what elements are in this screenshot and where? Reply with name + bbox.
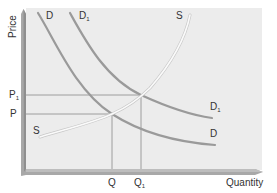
- price-p-label: P: [10, 108, 17, 119]
- y-axis-label: Price: [7, 15, 18, 38]
- plot-area: [26, 8, 262, 170]
- demand-d-top-label: D: [46, 10, 53, 21]
- supply-s-top-label: S: [176, 10, 183, 21]
- x-axis: [21, 169, 263, 176]
- supply-demand-diagram: Price Quantity P1 P Q Q1 D D1 S S D1 D: [0, 0, 277, 193]
- supply-s-bottom-label: S: [33, 125, 40, 136]
- demand-d-end-label: D: [210, 128, 217, 139]
- quantity-q-label: Q: [108, 177, 116, 188]
- y-axis: [21, 9, 26, 176]
- x-axis-label: Quantity: [226, 177, 263, 188]
- price-p1-label: P1: [9, 89, 20, 101]
- quantity-q1-label: Q1: [134, 177, 146, 189]
